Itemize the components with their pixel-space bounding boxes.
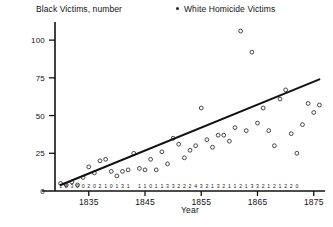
scatter-point xyxy=(166,162,170,166)
black-victim-number-label: 3 xyxy=(256,183,259,189)
black-victim-number-label: 0 xyxy=(110,183,113,189)
scatter-point xyxy=(306,102,310,106)
black-victim-number-label: 1 xyxy=(138,183,141,189)
scatter-point xyxy=(143,168,147,172)
black-victim-number-label: 1 xyxy=(228,183,231,189)
scatter-point xyxy=(233,126,237,130)
scatter-point xyxy=(199,106,203,110)
chart-container: Black Victims, number White Homicide Vic… xyxy=(0,0,333,227)
scatter-point xyxy=(137,166,141,170)
trend-line-group xyxy=(61,79,320,185)
scatter-point xyxy=(227,139,231,143)
black-victim-number-label: 1 xyxy=(104,183,107,189)
black-victim-number-label: 0 xyxy=(93,183,96,189)
y-tick-label: 0 xyxy=(40,187,45,196)
black-victim-number-label: 2 xyxy=(239,183,242,189)
black-victim-number-label: 2 xyxy=(290,183,293,189)
black-victim-number-label: 2 xyxy=(284,183,287,189)
black-victim-number-label: 3 xyxy=(217,183,220,189)
black-victim-number-label: 1 xyxy=(267,183,270,189)
x-tick-label: 1875 xyxy=(304,197,324,207)
scatter-point xyxy=(154,168,158,172)
scatter-point xyxy=(289,132,293,136)
plot-area: 0255075100 18351845185518651875 18300202… xyxy=(0,0,333,227)
black-victim-number-label: 0 xyxy=(295,183,298,189)
scatter-point xyxy=(278,97,282,101)
black-victim-number-label: 1 xyxy=(144,183,147,189)
black-victim-number-label: 1 xyxy=(279,183,282,189)
y-tick-group: 0255075100 xyxy=(31,36,55,196)
x-tick-group: 18351845185518651875 xyxy=(79,191,324,207)
black-victim-number-labels: 1830020210131110113322243213211213321212… xyxy=(59,183,298,189)
scatter-point xyxy=(261,106,265,110)
black-victim-number-label: 2 xyxy=(189,183,192,189)
scatter-point xyxy=(250,50,254,54)
black-victim-number-label: 3 xyxy=(70,183,73,189)
black-victim-number-label: 2 xyxy=(177,183,180,189)
scatter-point xyxy=(104,157,108,161)
scatter-point xyxy=(109,169,113,173)
scatter-point xyxy=(211,145,215,149)
scatter-point xyxy=(126,168,130,172)
y-tick-label: 50 xyxy=(36,112,46,121)
y-tick-label: 75 xyxy=(36,74,46,83)
scatter-point xyxy=(115,174,119,178)
scatter-point xyxy=(98,159,102,163)
scatter-point xyxy=(194,144,198,148)
scatter-point xyxy=(312,111,316,115)
black-victim-number-label: 2 xyxy=(205,183,208,189)
axis-group xyxy=(42,22,325,191)
scatter-point xyxy=(149,157,153,161)
x-tick-label: 1865 xyxy=(248,197,268,207)
black-victim-number-label: 3 xyxy=(172,183,175,189)
scatter-point xyxy=(188,148,192,152)
black-victim-number-label: 1 xyxy=(59,183,62,189)
black-victim-number-label: 1 xyxy=(155,183,158,189)
scatter-point xyxy=(272,144,276,148)
black-victim-number-label: 1 xyxy=(115,183,118,189)
scatter-point xyxy=(256,121,260,125)
black-victim-number-label: 3 xyxy=(166,183,169,189)
black-victim-number-label: 2 xyxy=(273,183,276,189)
black-victim-number-label: 1 xyxy=(234,183,237,189)
y-tick-label: 100 xyxy=(31,36,45,45)
black-victim-number-label: 3 xyxy=(121,183,124,189)
scatter-point xyxy=(177,142,181,146)
black-victim-number-label: 1 xyxy=(160,183,163,189)
black-victim-number-label: 2 xyxy=(222,183,225,189)
scatter-point xyxy=(244,129,248,133)
y-tick-label: 25 xyxy=(36,149,46,158)
scatter-point xyxy=(216,133,220,137)
x-axis-title: Year xyxy=(181,205,199,215)
scatter-point xyxy=(182,156,186,160)
black-victim-number-label: 0 xyxy=(149,183,152,189)
black-victim-number-label: 1 xyxy=(245,183,248,189)
x-tick-label: 1845 xyxy=(135,197,155,207)
black-victim-number-label: 1 xyxy=(127,183,130,189)
black-victim-number-label: 2 xyxy=(183,183,186,189)
scatter-point xyxy=(121,169,125,173)
scatter-point xyxy=(87,165,91,169)
x-tick-label: 1835 xyxy=(79,197,99,207)
black-victim-number-label: 1 xyxy=(211,183,214,189)
black-victim-number-label: 2 xyxy=(87,183,90,189)
black-victim-number-label: 0 xyxy=(82,183,85,189)
scatter-point xyxy=(222,133,226,137)
scatter-point xyxy=(205,138,209,142)
black-victim-number-label: 2 xyxy=(99,183,102,189)
trend-line xyxy=(61,79,320,185)
scatter-point xyxy=(301,123,305,127)
black-victim-number-label: 3 xyxy=(200,183,203,189)
black-victim-number-label: 2 xyxy=(262,183,265,189)
black-victim-number-label: 4 xyxy=(194,183,197,189)
scatter-point xyxy=(295,151,299,155)
scatter-point xyxy=(284,88,288,92)
scatter-point xyxy=(317,103,321,107)
scatter-point xyxy=(267,129,271,133)
black-victim-number-label: 8 xyxy=(65,183,68,189)
black-victim-number-label: 3 xyxy=(250,183,253,189)
scatter-point xyxy=(239,29,243,33)
scatter-point xyxy=(160,150,164,154)
black-victim-number-label: 0 xyxy=(76,183,79,189)
scatter-markers xyxy=(59,29,322,187)
